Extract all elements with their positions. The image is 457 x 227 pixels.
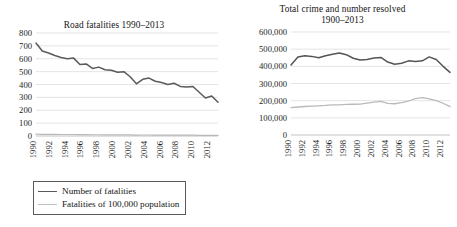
x-tick-label: 2012 — [435, 140, 445, 157]
y-tick-label: 400 — [19, 80, 32, 90]
legend-road-fatalities-label: Number of fatalities — [62, 185, 136, 198]
x-tick-label: 2000 — [352, 140, 362, 157]
y-tick-label: 0 — [28, 131, 32, 141]
series-line-1 — [36, 134, 218, 135]
y-tick-label: 300,000 — [259, 79, 287, 89]
legend-road-fatalities-item: Number of fatalities — [38, 185, 179, 198]
y-tick-label: 700 — [19, 41, 32, 51]
y-tick-label: 500,000 — [259, 44, 287, 54]
y-tick-label: 100 — [19, 118, 32, 128]
x-tick-label: 2002 — [123, 141, 133, 158]
x-tick-label: 1994 — [311, 139, 321, 157]
series-line-0 — [36, 43, 218, 102]
y-tick-label: 500 — [19, 67, 32, 77]
x-tick-label: 1996 — [75, 140, 85, 158]
series-line-0 — [291, 53, 450, 72]
x-tick-label: 2012 — [202, 141, 212, 158]
x-tick-label: 1994 — [60, 140, 70, 158]
x-tick-label: 1998 — [338, 140, 348, 157]
y-tick-label: 800 — [19, 28, 32, 38]
y-tick-label: 0 — [283, 130, 287, 140]
x-tick-label: 2004 — [380, 139, 390, 157]
x-tick-label: 1996 — [324, 139, 334, 157]
x-tick-label: 2010 — [186, 141, 196, 158]
x-tick-label: 1992 — [297, 140, 307, 157]
y-tick-label: 300 — [19, 92, 32, 102]
figure-container: Road fatalities 1990–2013 80070060050040… — [0, 0, 457, 227]
x-tick-label: 2006 — [394, 139, 404, 157]
x-tick-label: 2008 — [170, 141, 180, 158]
x-tick-label: 1990 — [28, 141, 38, 158]
x-tick-label: 2006 — [155, 140, 165, 158]
x-tick-label: 1992 — [44, 141, 54, 158]
x-tick-label: 2000 — [107, 141, 117, 158]
x-tick-label: 2002 — [366, 140, 376, 157]
y-tick-label: 200,000 — [259, 96, 287, 106]
x-tick-label: 2008 — [407, 140, 417, 157]
x-tick-label: 2004 — [139, 140, 149, 158]
y-tick-label: 200 — [19, 105, 32, 115]
legend-road-fatalities-label: Fatalities of 100,000 population — [62, 198, 179, 211]
legend-swatch-line-icon — [38, 204, 57, 205]
y-tick-label: 100,000 — [259, 113, 287, 123]
legend-road-fatalities-item: Fatalities of 100,000 population — [38, 198, 179, 211]
x-tick-label: 2010 — [421, 140, 431, 157]
chart-panel-total-crime: Total crime and number resolved 1900–201… — [228, 0, 457, 227]
legend-swatch-line-icon — [38, 191, 57, 192]
series-line-1 — [291, 98, 450, 108]
legend-road-fatalities: Number of fatalitiesFatalities of 100,00… — [33, 181, 186, 215]
x-tick-label: 1990 — [283, 140, 293, 157]
plot-area-road-fatalities: 8007006005004003002001000199019921994199… — [0, 0, 228, 175]
chart-panel-road-fatalities: Road fatalities 1990–2013 80070060050040… — [0, 0, 228, 227]
x-tick-label: 1998 — [91, 141, 101, 158]
y-tick-label: 600 — [19, 54, 32, 64]
y-tick-label: 600,000 — [259, 27, 287, 37]
y-tick-label: 400,000 — [259, 61, 287, 71]
plot-area-total-crime: 600,000500,000400,000300,000200,000100,0… — [228, 0, 457, 175]
